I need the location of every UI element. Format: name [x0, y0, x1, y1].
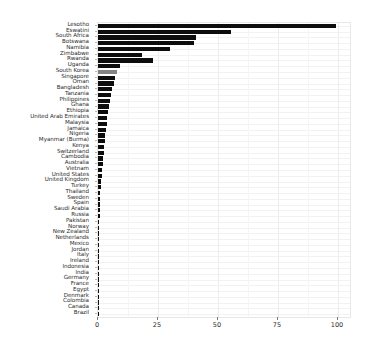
bar-row [98, 272, 350, 276]
bar-chart: LesothoEswatiniSouth AfricaBotswanaNamib… [0, 0, 378, 345]
bar [98, 87, 112, 91]
y-axis-tick [95, 307, 97, 308]
bar [98, 35, 196, 39]
bar [98, 266, 99, 270]
bar-row [98, 58, 350, 62]
bar [98, 191, 100, 195]
y-axis-tick [95, 296, 97, 297]
y-axis-tick [95, 250, 97, 251]
bar [98, 237, 99, 241]
bar [98, 122, 107, 126]
bar-row [98, 249, 350, 253]
bar-row [98, 266, 350, 270]
bar-row [98, 70, 350, 74]
bar [98, 58, 153, 62]
bar-row [98, 24, 350, 28]
y-axis-tick [95, 146, 97, 147]
y-axis-tick [95, 215, 97, 216]
bar [98, 208, 100, 212]
bar-row [98, 162, 350, 166]
y-axis-tick [95, 94, 97, 95]
y-axis-tick [95, 31, 97, 32]
bar-row [98, 312, 350, 316]
bar [98, 76, 115, 80]
bar [98, 104, 109, 108]
bar-row [98, 47, 350, 51]
x-axis-tick [217, 317, 218, 320]
y-axis-tick [95, 36, 97, 37]
bar-row [98, 156, 350, 160]
bar [98, 24, 336, 28]
bar [98, 81, 114, 85]
bar-row [98, 104, 350, 108]
bar [98, 179, 101, 183]
y-axis-tick [95, 106, 97, 107]
bar-row [98, 99, 350, 103]
y-axis-tick [95, 186, 97, 187]
bar-row [98, 128, 350, 132]
bar [98, 312, 99, 316]
x-axis-tick-label: 75 [273, 321, 281, 329]
y-axis-tick [95, 221, 97, 222]
bar [98, 41, 194, 45]
y-axis-tick [95, 25, 97, 26]
bar [98, 64, 120, 68]
bar-row [98, 64, 350, 68]
bar [98, 133, 105, 137]
y-axis-tick [95, 83, 97, 84]
y-axis-tick [95, 244, 97, 245]
y-axis-tick [95, 48, 97, 49]
y-axis-tick [95, 163, 97, 164]
bar [98, 174, 102, 178]
y-axis-tick [95, 59, 97, 60]
x-axis: 0255075100 [97, 317, 349, 339]
bar-row [98, 300, 350, 304]
y-axis-tick [95, 169, 97, 170]
bar-row [98, 243, 350, 247]
y-axis-tick [95, 302, 97, 303]
bar-row [98, 76, 350, 80]
y-axis-tick [95, 261, 97, 262]
y-axis-tick [95, 71, 97, 72]
bar-row [98, 277, 350, 281]
bar-row [98, 283, 350, 287]
bar-row [98, 110, 350, 114]
bar-row [98, 295, 350, 299]
y-axis-tick [95, 129, 97, 130]
y-axis-tick [95, 175, 97, 176]
y-axis-tick [95, 181, 97, 182]
bar [98, 277, 99, 281]
bar-row [98, 41, 350, 45]
bar-row [98, 220, 350, 224]
x-axis-tick-label: 0 [95, 321, 99, 329]
bar-row [98, 145, 350, 149]
bar [98, 145, 104, 149]
bar [98, 289, 99, 293]
x-axis-tick [277, 317, 278, 320]
bar-row [98, 174, 350, 178]
bar-row [98, 122, 350, 126]
bar-row [98, 191, 350, 195]
bar-row [98, 81, 350, 85]
bar [98, 306, 99, 310]
bar [98, 156, 103, 160]
bar-row [98, 237, 350, 241]
bar [98, 139, 105, 143]
bar [98, 283, 99, 287]
bar-row [98, 151, 350, 155]
y-axis-tick [95, 238, 97, 239]
x-axis-tick [157, 317, 158, 320]
y-axis-tick [95, 290, 97, 291]
y-axis-tick [95, 192, 97, 193]
bar-row [98, 214, 350, 218]
bar [98, 93, 111, 97]
bar-row [98, 87, 350, 91]
bar [98, 110, 108, 114]
bar [98, 220, 99, 224]
y-axis-tick [95, 54, 97, 55]
bar-row [98, 168, 350, 172]
y-axis-tick [95, 42, 97, 43]
bar [98, 197, 100, 201]
y-axis-tick [95, 209, 97, 210]
bar [98, 295, 99, 299]
